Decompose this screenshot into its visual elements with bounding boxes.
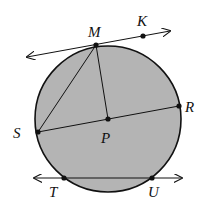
label-K: K [136, 13, 148, 29]
point-M [93, 42, 98, 47]
circle-diagram: M K R S P T U [0, 0, 208, 205]
label-U: U [148, 184, 160, 200]
label-R: R [184, 99, 194, 115]
label-P: P [100, 130, 110, 146]
point-U [149, 175, 154, 180]
point-T [61, 175, 66, 180]
point-P [105, 116, 110, 121]
point-K [140, 33, 145, 38]
point-R [176, 103, 181, 108]
label-S: S [13, 125, 21, 141]
label-M: M [87, 24, 102, 40]
label-T: T [49, 184, 59, 200]
point-S [35, 129, 40, 134]
